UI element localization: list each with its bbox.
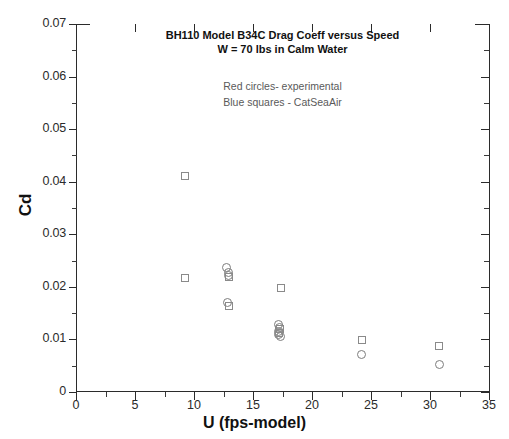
legend: Red circles- experimental Blue squares -…	[76, 78, 489, 110]
data-point-square-1-2	[225, 273, 233, 281]
y-tick-right-4	[481, 182, 489, 183]
x-tick-minor-2	[224, 392, 225, 397]
legend-entry-experimental: Red circles- experimental	[76, 78, 489, 94]
y-axis-title: Cd	[16, 175, 36, 235]
data-point-square-1-4	[277, 284, 285, 292]
y-tick-1	[69, 339, 77, 340]
x-tick-minor-6	[460, 392, 461, 397]
data-point-square-1-6	[275, 329, 283, 337]
x-tick-label-1: 5	[115, 398, 155, 412]
x-axis-title: U (fps-model)	[0, 414, 509, 432]
x-tick-minor-3	[283, 392, 284, 397]
y-tick-minor-0	[72, 366, 77, 367]
x-tick-top-7	[489, 24, 490, 32]
y-tick-minor-3	[72, 208, 77, 209]
y-tick-right-0	[481, 392, 489, 393]
y-tick-right-3	[481, 234, 489, 235]
y-tick-2	[69, 287, 77, 288]
x-tick-label-4: 20	[292, 398, 332, 412]
data-point-circle-0-10	[435, 360, 444, 369]
y-tick-minor-2	[72, 261, 77, 262]
y-tick-right-1	[481, 339, 489, 340]
y-tick-right-minor-1	[484, 313, 489, 314]
chart-title-line2: W = 70 lbs in Calm Water	[76, 42, 489, 56]
legend-entry-catseaair: Blue squares - CatSeaAir	[76, 94, 489, 110]
axis-right-edge	[489, 24, 490, 392]
y-tick-label-1: 0.01	[14, 331, 66, 345]
y-tick-label-7: 0.07	[14, 16, 66, 30]
x-tick-label-5: 25	[351, 398, 391, 412]
x-tick-minor-0	[106, 392, 107, 397]
data-point-circle-0-9	[357, 350, 366, 359]
chart-title-line1: BH110 Model B34C Drag Coeff versus Speed	[76, 28, 489, 42]
y-tick-label-6: 0.06	[14, 69, 66, 83]
y-tick-3	[69, 234, 77, 235]
data-point-square-1-0	[181, 172, 189, 180]
chart-title: BH110 Model B34C Drag Coeff versus Speed…	[76, 28, 489, 56]
y-tick-minor-1	[72, 313, 77, 314]
y-tick-5	[69, 129, 77, 130]
y-tick-label-5: 0.05	[14, 121, 66, 135]
y-tick-right-5	[481, 129, 489, 130]
x-tick-label-7: 35	[469, 398, 509, 412]
chart-page: 00.010.020.030.040.050.060.0705101520253…	[0, 0, 509, 439]
y-tick-right-minor-3	[484, 208, 489, 209]
y-tick-right-minor-4	[484, 155, 489, 156]
x-tick-label-3: 15	[233, 398, 273, 412]
data-point-square-1-8	[435, 342, 443, 350]
data-point-square-1-1	[181, 274, 189, 282]
y-tick-right-2	[481, 287, 489, 288]
x-tick-label-0: 0	[56, 398, 96, 412]
y-tick-right-minor-2	[484, 261, 489, 262]
data-point-square-1-7	[358, 336, 366, 344]
y-tick-label-0: 0	[14, 384, 66, 398]
y-tick-4	[69, 182, 77, 183]
axis-top-left-stub	[76, 24, 90, 25]
y-tick-right-7	[481, 24, 489, 25]
data-point-square-1-3	[225, 302, 233, 310]
x-tick-minor-5	[401, 392, 402, 397]
x-tick-minor-1	[165, 392, 166, 397]
x-tick-label-6: 30	[410, 398, 450, 412]
y-tick-minor-4	[72, 155, 77, 156]
x-tick-label-2: 10	[174, 398, 214, 412]
y-tick-label-2: 0.02	[14, 279, 66, 293]
y-tick-right-minor-0	[484, 366, 489, 367]
x-tick-minor-4	[342, 392, 343, 397]
